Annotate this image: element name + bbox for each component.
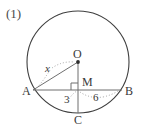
leader-arc-3 [69,91,77,99]
length-label-mb: 6 [93,92,99,103]
point-label-a: A [22,85,31,97]
point-label-b: B [125,85,133,97]
geometry-figure-panel: (1) O M A B C 3 6 x [0,0,146,130]
point-label-c: C [74,114,82,126]
length-label-radius-x: x [45,63,50,74]
leader-arc-6 [80,92,103,97]
length-label-am: 3 [64,94,70,105]
geometry-diagram-canvas [0,0,146,130]
point-label-o: O [73,48,82,60]
point-label-m: M [82,76,93,88]
right-angle-marker-at-m [71,83,78,90]
